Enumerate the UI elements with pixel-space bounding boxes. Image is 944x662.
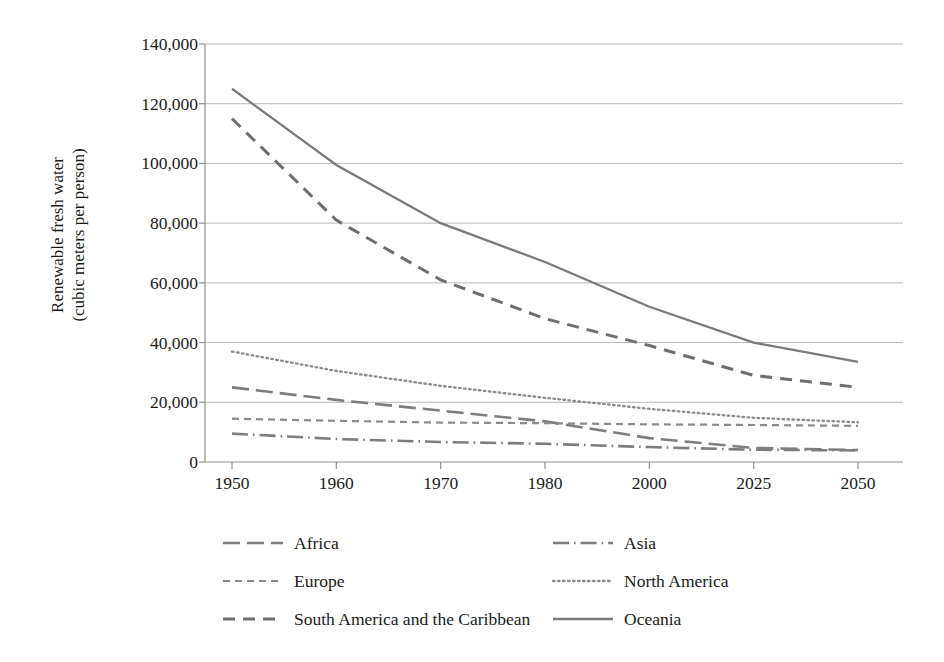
legend-item[interactable]: North America <box>552 571 882 592</box>
chart-figure: Renewable fresh water (cubic meters per … <box>0 0 944 662</box>
legend-item[interactable]: South America and the Caribbean <box>222 609 552 630</box>
chart-legend: AfricaAsiaEuropeNorth AmericaSouth Ameri… <box>222 524 882 638</box>
series-line <box>232 352 858 423</box>
plot-area <box>0 0 944 520</box>
data-series-group <box>232 89 858 451</box>
legend-label: North America <box>624 571 728 592</box>
legend-label: Asia <box>624 533 656 554</box>
legend-swatch-long-dash-icon <box>222 537 284 549</box>
legend-label: Africa <box>294 533 339 554</box>
legend-label: Oceania <box>624 609 681 630</box>
legend-swatch-solid-icon <box>552 613 614 625</box>
legend-label: South America and the Caribbean <box>294 609 530 630</box>
series-line <box>232 419 858 426</box>
series-line <box>232 89 858 362</box>
legend-item[interactable]: Oceania <box>552 609 882 630</box>
legend-swatch-dash-dot-icon <box>552 537 614 549</box>
gridlines <box>205 44 903 402</box>
legend-item[interactable]: Europe <box>222 571 552 592</box>
legend-swatch-medium-dash-icon <box>222 613 284 625</box>
legend-swatch-short-dash-icon <box>222 575 284 587</box>
legend-item[interactable]: Asia <box>552 533 882 554</box>
series-line <box>232 119 858 388</box>
legend-swatch-dotted-icon <box>552 575 614 587</box>
legend-label: Europe <box>294 571 345 592</box>
legend-item[interactable]: Africa <box>222 533 552 554</box>
